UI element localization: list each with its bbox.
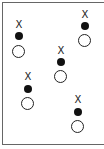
- filled-circle-icon: [24, 85, 32, 93]
- filled-circle-icon: [15, 32, 23, 40]
- filled-circle-icon: [57, 58, 65, 66]
- x-marker: X: [21, 72, 35, 82]
- x-marker: X: [54, 46, 68, 56]
- empty-circle-icon: [71, 120, 84, 133]
- x-marker: X: [12, 20, 26, 30]
- empty-circle-icon: [78, 34, 91, 47]
- empty-circle-icon: [12, 45, 25, 58]
- x-marker: X: [78, 10, 92, 20]
- empty-circle-icon: [21, 97, 34, 110]
- empty-circle-icon: [54, 70, 67, 83]
- filled-circle-icon: [74, 108, 82, 116]
- x-marker: X: [71, 95, 85, 105]
- filled-circle-icon: [81, 22, 89, 30]
